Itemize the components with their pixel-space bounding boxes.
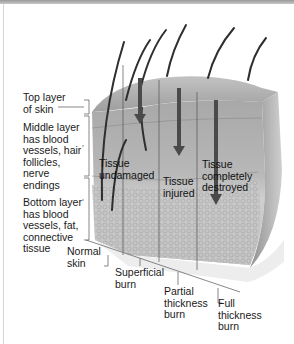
label-middle-layer: Middle layer has blood vessels, hair fol… (23, 122, 81, 191)
label-tissue-undamaged: Tissue undamaged (99, 158, 154, 181)
label-tissue-injured: Tissue injured (163, 176, 195, 199)
label-top-layer: Top layer of skin (23, 92, 66, 115)
label-tissue-destroyed: Tissue completely destroyed (202, 159, 252, 194)
label-full-thickness-burn: Full thickness burn (218, 298, 262, 333)
label-partial-thickness-burn: Partial thickness burn (164, 286, 208, 321)
label-superficial-burn: Superficial burn (115, 267, 164, 290)
label-normal-skin: Normal skin (67, 246, 101, 269)
